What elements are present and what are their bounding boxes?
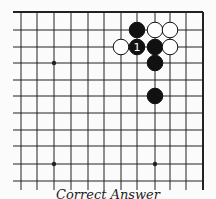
- white-stone: [162, 22, 178, 38]
- star-point: [52, 61, 56, 65]
- white-stone: [113, 39, 129, 55]
- diagram-caption: Correct Answer: [0, 188, 216, 199]
- go-board: 1: [0, 0, 216, 199]
- black-stone: [129, 22, 145, 38]
- star-point: [153, 162, 157, 166]
- star-point: [52, 162, 56, 166]
- grid-lines: [13, 12, 203, 190]
- black-stone: 1: [129, 39, 145, 55]
- black-stone: [147, 55, 163, 71]
- black-stone: [147, 88, 163, 104]
- white-stone: [147, 22, 163, 38]
- black-stone: [147, 39, 163, 55]
- white-stone: [162, 39, 178, 55]
- move-number: 1: [134, 41, 141, 54]
